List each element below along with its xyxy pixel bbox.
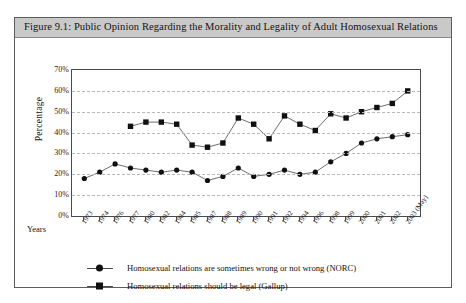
data-point-circle	[328, 159, 333, 164]
data-point-circle	[205, 178, 210, 183]
x-axis-tick-mark	[145, 217, 146, 221]
x-axis-tick-mark	[360, 217, 361, 221]
x-axis-tick-mark	[114, 217, 115, 221]
y-axis-tick-label: 0%	[35, 211, 69, 220]
x-axis-tick-mark	[207, 217, 208, 221]
x-axis-tick-mark	[314, 217, 315, 221]
data-point-circle	[113, 161, 118, 166]
x-axis-tick-mark	[99, 217, 100, 221]
y-axis-tick-label: 20%	[35, 169, 69, 178]
x-axis-tick-mark	[283, 217, 284, 221]
legend-marker-circle-icon	[96, 265, 103, 272]
x-axis-tick-mark	[237, 217, 238, 221]
y-axis-tick-label: 70%	[35, 65, 69, 74]
data-point-square	[343, 115, 348, 120]
data-point-circle	[359, 140, 364, 145]
gridline	[72, 153, 420, 154]
data-point-square	[266, 136, 271, 141]
figure-title-bar: Figure 9.1: Public Opinion Regarding the…	[15, 18, 451, 38]
series-layer	[72, 70, 420, 216]
data-point-square	[128, 124, 133, 129]
legend-marker-square-icon	[96, 283, 103, 290]
x-axis-tick-mark	[407, 217, 408, 221]
x-axis-tick-mark	[222, 217, 223, 221]
gridline	[72, 91, 420, 92]
data-point-circle	[82, 176, 87, 181]
legend-line	[87, 268, 113, 269]
page-title: Figure 9.1: Public Opinion Regarding the…	[15, 22, 438, 33]
gridline	[72, 112, 420, 113]
data-point-square	[282, 113, 287, 118]
legend-item-0: Homosexual relations are sometimes wrong…	[87, 263, 356, 273]
x-axis-tick-mark	[376, 217, 377, 221]
data-point-square	[390, 101, 395, 106]
data-point-circle	[143, 168, 148, 173]
y-axis-tick-label: 30%	[35, 148, 69, 157]
chart-container: Percentage Years 0%10%20%30%40%50%60%70%…	[15, 38, 451, 288]
x-axis-tick-mark	[160, 217, 161, 221]
data-point-square	[236, 115, 241, 120]
x-axis-tick-mark	[345, 217, 346, 221]
x-axis-tick-mark	[391, 217, 392, 221]
x-axis-tick-mark	[176, 217, 177, 221]
data-point-square	[143, 119, 148, 124]
y-axis-tick-label: 40%	[35, 127, 69, 136]
legend-label: Homosexual relations should be legal (Ga…	[127, 281, 288, 291]
gridline	[72, 174, 420, 175]
data-point-square	[205, 145, 210, 150]
data-point-square	[374, 105, 379, 110]
legend-line	[87, 286, 113, 287]
y-axis-tick-label: 60%	[35, 85, 69, 94]
data-point-square	[220, 140, 225, 145]
data-point-circle	[174, 168, 179, 173]
gridline	[72, 195, 420, 196]
x-axis-tick-mark	[299, 217, 300, 221]
data-point-square	[297, 122, 302, 127]
data-point-circle	[282, 168, 287, 173]
x-axis-labels: 1973197419761977198019821984198519871988…	[15, 221, 451, 261]
x-axis-tick-mark	[253, 217, 254, 221]
y-axis-ticks: 0%10%20%30%40%50%60%70%	[29, 69, 69, 217]
data-point-square	[189, 142, 194, 147]
plot-area	[71, 69, 421, 217]
data-point-circle	[128, 165, 133, 170]
figure-frame: Figure 9.1: Public Opinion Regarding the…	[14, 17, 452, 288]
legend-label: Homosexual relations are sometimes wrong…	[127, 263, 356, 273]
x-axis-tick-mark	[268, 217, 269, 221]
gridline	[72, 133, 420, 134]
x-axis-tick-mark	[330, 217, 331, 221]
x-axis-tick-mark	[83, 217, 84, 221]
y-axis-tick-label: 50%	[35, 106, 69, 115]
x-axis-tick-mark	[130, 217, 131, 221]
data-point-circle	[390, 134, 395, 139]
x-axis-tick-mark	[191, 217, 192, 221]
data-point-circle	[374, 136, 379, 141]
data-point-square	[174, 122, 179, 127]
y-axis-tick-label: 10%	[35, 190, 69, 199]
data-point-square	[251, 122, 256, 127]
legend-item-1: Homosexual relations should be legal (Ga…	[87, 281, 288, 291]
data-point-circle	[236, 165, 241, 170]
data-point-square	[159, 119, 164, 124]
